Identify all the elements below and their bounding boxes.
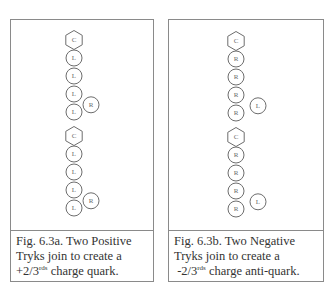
caption-line-3: +2/3rds charge quark. <box>16 264 149 279</box>
tryk-label: R <box>234 73 239 81</box>
tryk-label: L <box>72 186 76 194</box>
caption-line-1: Fig. 6.3a. Two Positive <box>16 234 149 249</box>
tryk-label: L <box>256 102 260 110</box>
tryk-diagram-svg-b: CRRRRLCRRRRL <box>169 20 325 230</box>
tryk-label: C <box>72 132 77 140</box>
tryk-label: L <box>72 54 76 62</box>
caption-line-2: Tryks join to create a <box>16 249 149 264</box>
caption-superscript: rds <box>197 264 206 272</box>
tryk-label: C <box>72 36 77 44</box>
caption-line-3: -2/3rds charge anti-quark. <box>174 264 319 279</box>
caption-superscript: rds <box>39 264 48 272</box>
tryk-label: L <box>72 72 76 80</box>
tryk-label: L <box>72 168 76 176</box>
caption-a: Fig. 6.3a. Two Positive Tryks join to cr… <box>11 230 153 282</box>
tryk-label: R <box>234 205 239 213</box>
caption-tail: charge anti-quark. <box>206 264 300 278</box>
tryk-diagram-svg-a: CLLLLRCLLLLR <box>11 20 155 230</box>
tryk-diagram-b: CRRRRLCRRRRL <box>169 20 323 231</box>
tryk-label: L <box>72 150 76 158</box>
tryk-diagram-a: CLLLLRCLLLLR <box>11 20 153 231</box>
tryk-label: L <box>72 108 76 116</box>
caption-line-2: Tryks join to create a <box>174 249 319 264</box>
tryk-label: R <box>89 197 94 205</box>
caption-charge: -2/3 <box>174 264 197 278</box>
tryk-label: R <box>89 101 94 109</box>
caption-line-1: Fig. 6.3b. Two Negative <box>174 234 319 249</box>
caption-b: Fig. 6.3b. Two Negative Tryks join to cr… <box>169 230 323 282</box>
tryk-label: C <box>234 133 239 141</box>
tryk-label: C <box>234 37 239 45</box>
tryk-label: R <box>234 187 239 195</box>
tryk-label: R <box>234 151 239 159</box>
tryk-label: R <box>234 169 239 177</box>
tryk-label: L <box>72 90 76 98</box>
caption-charge: +2/3 <box>16 264 39 278</box>
tryk-label: L <box>72 204 76 212</box>
tryk-label: R <box>234 55 239 63</box>
figure-6-3b: CRRRRLCRRRRL Fig. 6.3b. Two Negative Try… <box>168 19 324 282</box>
tryk-label: R <box>234 109 239 117</box>
caption-tail: charge quark. <box>48 264 119 278</box>
tryk-label: L <box>256 198 260 206</box>
tryk-label: R <box>234 91 239 99</box>
figure-6-3a: CLLLLRCLLLLR Fig. 6.3a. Two Positive Try… <box>10 19 154 282</box>
